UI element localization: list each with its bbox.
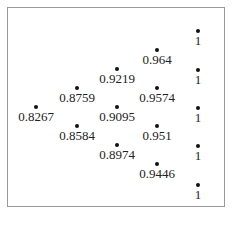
node-label: 1 (168, 149, 228, 162)
node-label: 0.951 (127, 129, 187, 142)
node-label: 0.9446 (127, 167, 187, 180)
node-label: 0.8759 (47, 91, 107, 104)
node-label: 1 (168, 34, 228, 47)
node-label: 1 (168, 111, 228, 124)
node-label: 0.8974 (87, 148, 147, 161)
node-label: 0.8584 (47, 129, 107, 142)
node-label: 1 (168, 73, 228, 86)
node-label: 0.8267 (6, 110, 66, 123)
node-label: 0.9574 (127, 91, 187, 104)
node-label: 0.964 (127, 53, 187, 66)
node-label: 0.9095 (87, 110, 147, 123)
node-label: 1 (168, 188, 228, 201)
node-label: 0.9219 (87, 72, 147, 85)
